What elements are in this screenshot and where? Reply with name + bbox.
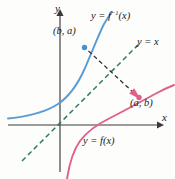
figure-canvas	[0, 0, 175, 179]
identity-line-y-equals-x	[22, 42, 141, 161]
inverse-function-label-head: y = f	[91, 10, 111, 21]
y-axis-label: y	[55, 3, 60, 14]
point-b-a-label: (b, a)	[53, 26, 76, 37]
inverse-function-reflection-figure: y x y = f−1(x) y = x y = f(x) (b, a) (a,…	[0, 0, 175, 179]
inverse-function-label: y = f−1(x)	[91, 11, 130, 22]
inverse-function-exponent: −1	[111, 9, 119, 16]
x-axis-label: x	[162, 112, 167, 123]
function-label: y = f(x)	[83, 136, 115, 147]
point-a-b-label: (a, b)	[130, 98, 153, 109]
axes-group	[8, 9, 164, 172]
inverse-function-label-tail: (x)	[119, 10, 131, 21]
identity-line-label: y = x	[137, 37, 159, 48]
point-b-a-marker	[82, 45, 87, 50]
